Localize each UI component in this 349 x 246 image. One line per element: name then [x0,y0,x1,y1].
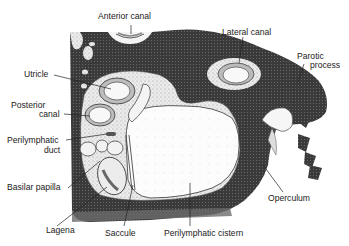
perilymphatic-duct [106,132,116,136]
lateral-canal [207,58,261,90]
label-saccule: Saccule [105,229,136,238]
label-lagena: Lagena [46,226,75,235]
utricle [99,78,135,104]
label-anterior-canal: Anterior canal [98,12,151,21]
bone-fragments [298,113,322,180]
label-utricle: Utricle [24,70,48,79]
label-perilymphatic-duct-line1: Perilymphatic [7,136,59,145]
label-posterior-canal-line2: canal [39,110,60,119]
diagram-illustration [0,0,349,246]
label-basilar-papilla: Basilar papilla [7,183,61,192]
label-parotic-process-line2: process [310,61,340,70]
label-perilymphatic-duct-line2: duct [44,146,60,155]
label-operculum: Operculum [268,194,310,203]
label-lateral-canal: Lateral canal [222,28,271,37]
posterior-canal [85,104,115,126]
label-perilymphatic-cistern: Perilymphatic cistern [164,229,243,238]
inner-ear-diagram: Anterior canal Lateral canal Parotic pro… [0,0,349,246]
